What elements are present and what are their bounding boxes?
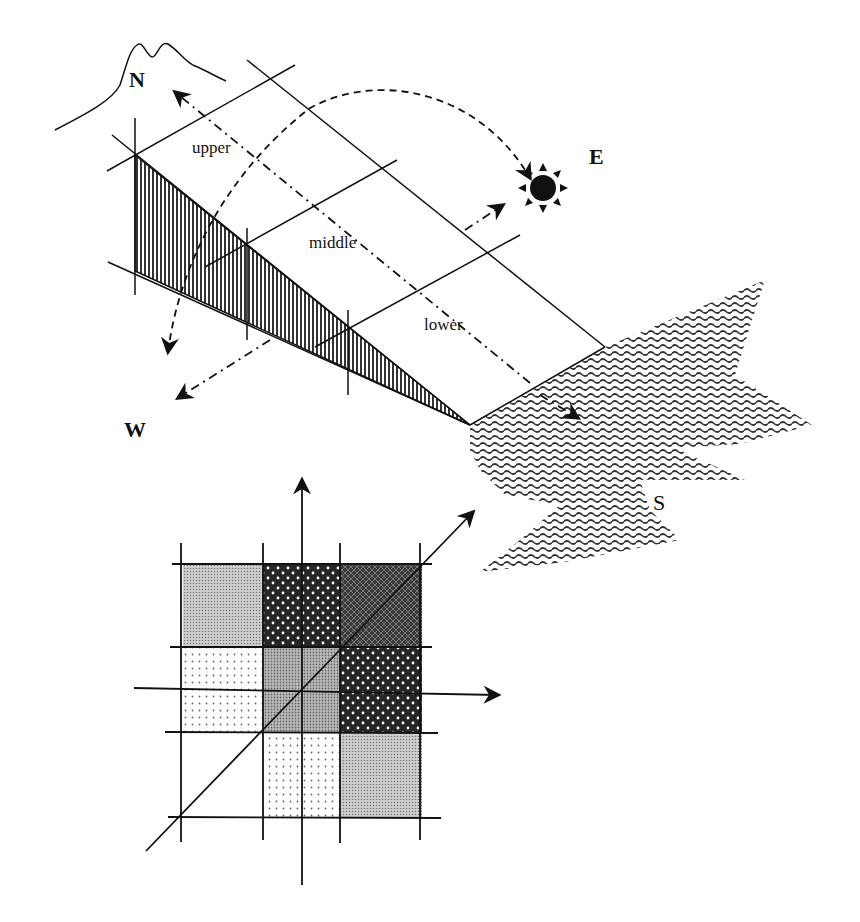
grid-cell-r2c3 xyxy=(340,647,422,733)
grid-cell-r3c3 xyxy=(340,733,422,818)
compass-west-label: W xyxy=(124,417,146,442)
sun-icon xyxy=(518,163,568,213)
section-middle-label: middle xyxy=(309,233,356,252)
compass-east-label: E xyxy=(589,144,604,169)
classification-grid xyxy=(134,480,498,885)
grid-cell-r1c1 xyxy=(183,565,263,647)
sea-region xyxy=(470,280,812,572)
slope-orientation-diagram: N E W S upper middle lower xyxy=(0,0,860,922)
compass-north-label: N xyxy=(129,67,145,92)
section-lower-label: lower xyxy=(424,315,463,334)
section-upper-label: upper xyxy=(192,138,231,157)
compass-south-label: S xyxy=(653,490,665,515)
